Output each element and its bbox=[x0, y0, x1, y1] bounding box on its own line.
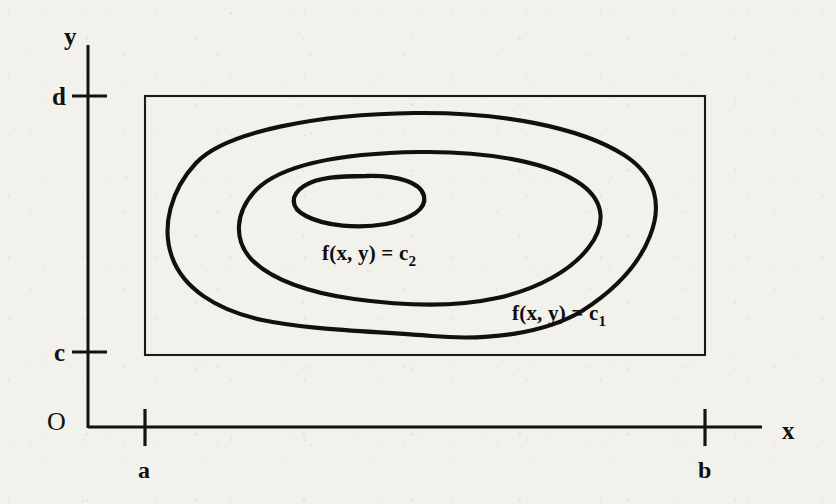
origin-label: O bbox=[47, 409, 66, 435]
figure-canvas: y x O d c a b f(x, y) = c2 f(x, y) = c1 bbox=[0, 0, 836, 504]
contour-label-c2-subscript: 2 bbox=[408, 253, 416, 269]
contour-label-c2-text: f(x, y) = c bbox=[322, 241, 408, 265]
contour-plot-graphic bbox=[0, 0, 836, 504]
contour-curve-innermost bbox=[294, 176, 425, 226]
y-tick-label-d: d bbox=[52, 84, 66, 109]
contour-label-c1-subscript: 1 bbox=[598, 313, 606, 329]
contour-curve-c2 bbox=[239, 152, 601, 305]
y-tick-label-c: c bbox=[54, 340, 65, 365]
domain-rectangle bbox=[145, 96, 705, 355]
y-axis-label: y bbox=[64, 24, 77, 49]
contour-label-c1-text: f(x, y) = c bbox=[512, 301, 598, 325]
x-tick-label-a: a bbox=[138, 458, 150, 482]
contour-label-c2: f(x, y) = c2 bbox=[322, 243, 416, 269]
x-tick-label-b: b bbox=[698, 458, 711, 482]
contour-label-c1: f(x, y) = c1 bbox=[512, 303, 606, 329]
x-axis-label: x bbox=[782, 418, 795, 443]
